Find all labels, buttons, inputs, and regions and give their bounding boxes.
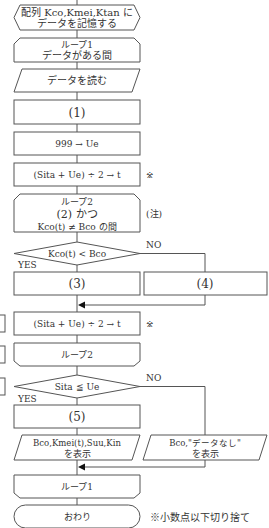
decision1-yes-label: YES — [17, 260, 37, 270]
footnote: ※小数点以下切り捨て — [150, 511, 250, 523]
loop1-start-text-1: ループ1 — [61, 40, 93, 50]
prep-text-2: データを記憶する — [37, 17, 117, 29]
decision2-merge-connector — [82, 460, 205, 467]
decision2-yes-label: YES — [17, 394, 37, 404]
flowchart: 配列 Kco,Kmei,Ktan に データを記憶する ループ1 データがある間… — [0, 0, 269, 528]
output-none-text-1: Bco,"データなし" — [169, 438, 241, 448]
loop1-end-text: ループ1 — [61, 482, 93, 492]
edge-box-2 — [0, 346, 5, 363]
decision1-no-connector — [140, 254, 205, 273]
decision2-no-connector — [140, 387, 205, 436]
decision1-merge-connector — [82, 295, 205, 305]
decision1-no-label: NO — [146, 240, 161, 250]
decision2-text: Sita ≦ Ue — [55, 382, 100, 392]
prep-text-1: 配列 Kco,Kmei,Ktan に — [21, 6, 133, 18]
loop2-note: (注) — [146, 208, 162, 219]
output-found-text-1: Bco,Kmei(t),Suu,Kin — [33, 438, 121, 448]
merge-arrow-2-icon — [78, 464, 85, 471]
step1-text: (1) — [69, 106, 86, 120]
calc-t2-mark: ※ — [146, 319, 154, 329]
calc-t2-text: (Sita + Ue) ÷ 2 → t — [33, 319, 120, 329]
loop1-start-text-2: データがある間 — [42, 49, 112, 61]
loop2-start-text-2: (2) かつ — [56, 208, 97, 221]
step4-text: (4) — [197, 277, 214, 291]
step5-text: (5) — [69, 410, 86, 424]
merge-arrow-1-icon — [78, 302, 85, 309]
loop2-end-text: ループ2 — [61, 350, 93, 360]
terminal-text: おわり — [64, 512, 91, 522]
read-text: データを読む — [47, 74, 107, 86]
init-ue-text: 999 → Ue — [55, 139, 98, 149]
output-found-text-2: を表示 — [64, 448, 91, 459]
edge-box-1 — [0, 315, 5, 332]
decision1-text: Kco(t) < Bco — [48, 249, 106, 259]
calc-t1-text: (Sita + Ue) ÷ 2 → t — [33, 170, 120, 180]
decision2-no-label: NO — [146, 373, 161, 383]
output-none-text-2: を表示 — [192, 448, 219, 459]
edge-box-3 — [0, 378, 5, 395]
calc-t1-mark: ※ — [146, 170, 154, 180]
loop2-start-text-3: Kco(t) ≠ Bco の間 — [37, 222, 116, 232]
loop2-start-text-1: ループ2 — [61, 197, 93, 207]
step3-text: (3) — [69, 277, 86, 291]
